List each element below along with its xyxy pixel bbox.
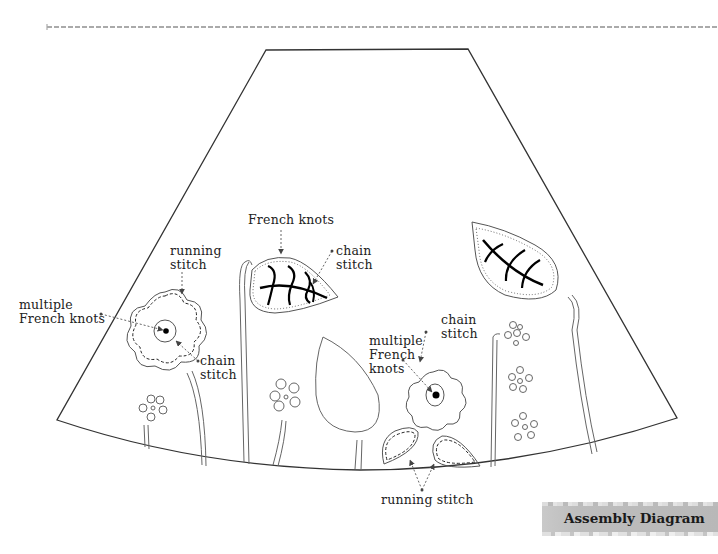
label-chain-stitch-left: chain stitch	[200, 354, 237, 382]
caption-title: Assembly Diagram	[564, 510, 705, 526]
label-french-knots-leaf: French knots	[248, 213, 334, 227]
leaf-top-right	[472, 222, 558, 299]
dot-flower-right-1	[505, 322, 530, 346]
cut-line	[47, 24, 718, 30]
assembly-diagram	[0, 0, 718, 554]
dot-flower-right-3	[512, 413, 538, 441]
dot-flower-left	[139, 395, 167, 421]
dot-flower-right-2	[509, 367, 533, 393]
label-running-stitch-top: running stitch	[170, 244, 222, 272]
label-multiple-french-knots-right: multiple French knots	[369, 334, 423, 376]
label-chain-stitch-leaf: chain stitch	[336, 244, 373, 272]
flower-right	[406, 370, 466, 430]
label-running-stitch-bottom: running stitch	[381, 493, 473, 507]
small-leaves-bottom	[382, 428, 480, 467]
dot-flower-mid	[270, 379, 300, 411]
leaf-top-center	[250, 258, 338, 314]
caption-bar: Assembly Diagram	[542, 505, 718, 533]
label-chain-stitch-right: chain stitch	[441, 313, 478, 341]
label-multiple-french-knots-left: multiple French knots	[19, 298, 105, 326]
